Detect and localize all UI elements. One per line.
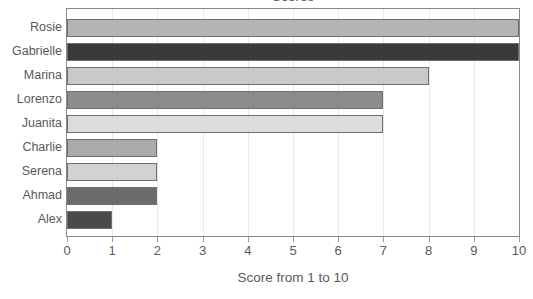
category-label-alex: Alex xyxy=(0,212,62,226)
x-tick-mark xyxy=(338,237,339,242)
x-tick-label: 10 xyxy=(512,243,526,259)
x-tick-mark xyxy=(519,237,520,242)
bars-container xyxy=(67,9,519,236)
bar-rosie[interactable] xyxy=(67,19,519,37)
x-tick-mark xyxy=(429,237,430,242)
x-tick-label: 1 xyxy=(109,243,116,259)
bar-row xyxy=(67,211,520,229)
category-label-marina: Marina xyxy=(0,68,62,82)
x-tick-label: 7 xyxy=(380,243,387,259)
bar-row xyxy=(67,187,520,205)
x-tick-label: 2 xyxy=(154,243,161,259)
bar-row xyxy=(67,91,520,109)
bar-chart: Scores RosieGabrielleMarinaLorenzoJuanit… xyxy=(0,0,533,299)
category-label-rosie: Rosie xyxy=(0,20,62,34)
x-tick-mark xyxy=(67,237,68,242)
bar-lorenzo[interactable] xyxy=(67,91,383,109)
bar-marina[interactable] xyxy=(67,67,429,85)
bar-row xyxy=(67,43,520,61)
x-tick-label: 0 xyxy=(63,243,70,259)
bar-gabrielle[interactable] xyxy=(67,43,519,61)
category-label-ahmad: Ahmad xyxy=(0,188,62,202)
x-axis-tick-labels: 012345678910 xyxy=(66,243,520,261)
x-tick-label: 6 xyxy=(335,243,342,259)
bar-juanita[interactable] xyxy=(67,115,383,133)
bar-ahmad[interactable] xyxy=(67,187,157,205)
bar-charlie[interactable] xyxy=(67,139,157,157)
category-label-serena: Serena xyxy=(0,164,62,178)
category-label-lorenzo: Lorenzo xyxy=(0,92,62,106)
bar-row xyxy=(67,115,520,133)
x-tick-mark xyxy=(157,237,158,242)
bar-serena[interactable] xyxy=(67,163,157,181)
bar-alex[interactable] xyxy=(67,211,112,229)
x-tick-label: 5 xyxy=(289,243,296,259)
bar-row xyxy=(67,19,520,37)
x-tick-label: 9 xyxy=(470,243,477,259)
x-tick-label: 3 xyxy=(199,243,206,259)
bar-row xyxy=(67,67,520,85)
x-tick-mark xyxy=(293,237,294,242)
x-tick-mark xyxy=(474,237,475,242)
x-tick-label: 4 xyxy=(244,243,251,259)
gridline xyxy=(519,9,520,236)
chart-title: Scores xyxy=(66,0,520,1)
x-tick-mark xyxy=(248,237,249,242)
category-label-juanita: Juanita xyxy=(0,116,62,130)
category-axis-labels: RosieGabrielleMarinaLorenzoJuanitaCharli… xyxy=(0,8,62,237)
category-label-gabrielle: Gabrielle xyxy=(0,44,62,58)
category-label-charlie: Charlie xyxy=(0,140,62,154)
bar-row xyxy=(67,139,520,157)
x-tick-label: 8 xyxy=(425,243,432,259)
x-tick-mark xyxy=(112,237,113,242)
x-tick-mark xyxy=(383,237,384,242)
x-axis-title: Score from 1 to 10 xyxy=(66,270,520,285)
x-tick-mark xyxy=(203,237,204,242)
bar-row xyxy=(67,163,520,181)
plot-area xyxy=(66,8,520,237)
